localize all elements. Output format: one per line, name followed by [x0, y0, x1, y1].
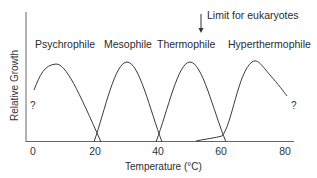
hyperthermophile-curve [196, 61, 287, 141]
thermophile-label: Thermophile [157, 38, 215, 50]
x-tick-0: 0 [30, 145, 36, 157]
x-axis-title: Temperature (°C) [125, 161, 202, 172]
unknown-right-marker: ? [291, 100, 297, 111]
hyperthermophile-label: Hyperthermophile [228, 38, 311, 50]
mesophile-label: Mesophile [104, 38, 152, 50]
x-tick-60: 60 [215, 145, 227, 157]
x-tick-40: 40 [152, 145, 164, 157]
x-tick-80: 80 [279, 145, 291, 157]
psychrophile-label: Psychrophile [35, 38, 95, 50]
y-axis-title: Relative Growth [9, 50, 20, 121]
psychrophile-curve [34, 64, 101, 142]
unknown-left-marker: ? [30, 100, 36, 111]
mesophile-curve [94, 62, 162, 142]
x-tick-20: 20 [89, 145, 101, 157]
eukaryote-limit-label: Limit for eukaryotes [207, 9, 299, 21]
limit-arrow-head [199, 28, 204, 33]
thermophile-curve [156, 62, 226, 142]
